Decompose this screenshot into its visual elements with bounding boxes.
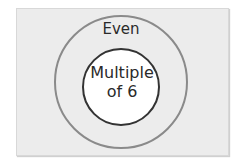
inner-label-line2: of 6 bbox=[84, 82, 160, 101]
multiple-of-6-set-label: Multiple of 6 bbox=[84, 63, 160, 101]
even-set-label: Even bbox=[91, 20, 151, 38]
inner-label-line1: Multiple bbox=[84, 63, 160, 82]
